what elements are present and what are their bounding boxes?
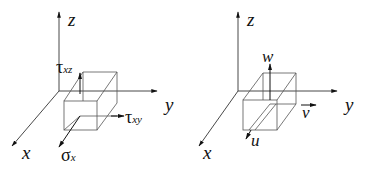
left-x-label: x xyxy=(22,143,30,162)
v-label: v xyxy=(302,104,310,121)
sigma-x-label: σx xyxy=(61,146,76,164)
diagram-svg xyxy=(0,0,376,172)
sigma-x-arrow xyxy=(59,116,80,147)
u-label: u xyxy=(251,132,260,149)
right-x-axis xyxy=(199,91,238,146)
right-y-label: y xyxy=(345,95,353,114)
right-x-label: x xyxy=(203,143,211,162)
diagram-canvas: z y x τxz τxy σx z y x w v u xyxy=(0,0,376,172)
right-panel xyxy=(199,12,337,146)
left-panel xyxy=(12,12,157,147)
left-x-axis xyxy=(12,91,59,146)
tau-xy-label: τxy xyxy=(125,108,142,126)
right-z-label: z xyxy=(247,10,254,29)
left-y-label: y xyxy=(165,95,173,114)
left-z-label: z xyxy=(68,10,75,29)
w-label: w xyxy=(262,48,273,65)
left-element-box xyxy=(64,72,117,130)
tau-xz-label: τxz xyxy=(56,58,72,76)
